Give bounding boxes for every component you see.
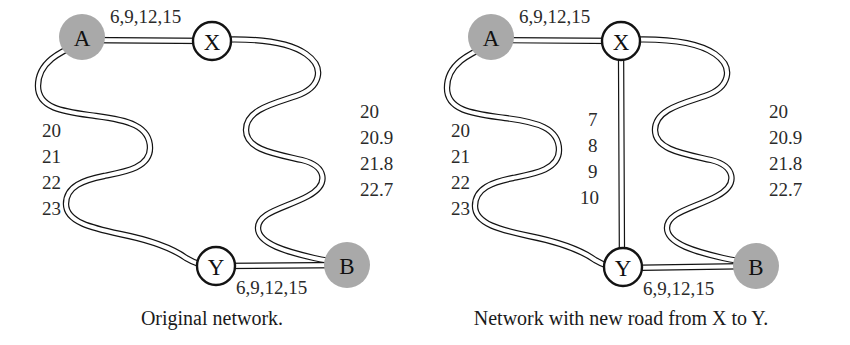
left-cost-2: 22 [42,172,61,193]
label-road-y-to-b: 6,9,12,15 [643,278,714,299]
middle-cost-2: 9 [588,161,598,182]
left-cost-1: 21 [451,146,470,167]
left-cost-2: 22 [451,172,470,193]
node-y-label: Y [615,256,632,281]
label-stack-right-road: 20 20.9 21.8 22.7 [360,101,393,200]
node-a-label: A [74,26,91,51]
label-stack-middle-road: 7 8 9 10 [580,109,599,208]
road-x-to-y-new [621,44,622,266]
right-cost-2: 21.8 [769,153,802,174]
right-cost-3: 22.7 [360,179,393,200]
right-cost-1: 20.9 [769,127,802,148]
node-b-label: B [339,254,354,279]
original-network-diagram: A X Y B 6,9,12,15 6,9,12,15 20 21 22 [0,0,425,345]
panel-caption: Network with new road from X to Y. [474,307,768,329]
middle-cost-0: 7 [588,109,598,130]
node-b[interactable]: B [733,243,779,289]
node-a-label: A [483,26,500,51]
panel-caption: Original network. [141,307,283,330]
node-y[interactable]: Y [604,248,642,286]
right-cost-0: 20 [769,101,788,122]
middle-cost-3: 10 [580,187,599,208]
braess-paradox-figure: A X Y B 6,9,12,15 6,9,12,15 20 21 22 [0,0,850,345]
road-a-to-y [447,44,621,268]
right-cost-2: 21.8 [360,153,393,174]
right-cost-3: 22.7 [769,179,802,200]
node-y[interactable]: Y [197,247,235,285]
label-stack-left-road: 20 21 22 23 [42,120,61,219]
node-y-label: Y [208,255,225,280]
node-x-label: X [204,30,221,55]
left-cost-0: 20 [451,120,470,141]
label-stack-right-road: 20 20.9 21.8 22.7 [769,101,802,200]
node-x[interactable]: X [602,22,640,60]
panel-network-with-new-road: A X Y B 6,9,12,15 6,9,12,15 20 21 22 [425,0,850,345]
road-a-to-y [38,42,212,266]
road-x-to-b [212,39,348,261]
node-x-label: X [613,30,630,55]
label-stack-left-road: 20 21 22 23 [451,120,470,219]
left-cost-1: 21 [42,146,61,167]
left-cost-3: 23 [42,198,61,219]
right-cost-0: 20 [360,101,379,122]
label-road-a-to-x: 6,9,12,15 [519,6,590,27]
road-x-to-b [621,39,757,261]
new-road-network-diagram: A X Y B 6,9,12,15 6,9,12,15 20 21 22 [425,0,850,345]
left-cost-0: 20 [42,120,61,141]
node-a[interactable]: A [59,14,105,60]
node-a[interactable]: A [468,14,514,60]
node-x[interactable]: X [193,22,231,60]
label-road-a-to-x: 6,9,12,15 [110,6,181,27]
middle-cost-1: 8 [588,135,598,156]
right-cost-1: 20.9 [360,127,393,148]
node-b-label: B [748,255,763,280]
node-b[interactable]: B [324,242,370,288]
label-road-y-to-b: 6,9,12,15 [236,277,307,298]
left-cost-3: 23 [451,198,470,219]
panel-original-network: A X Y B 6,9,12,15 6,9,12,15 20 21 22 [0,0,425,345]
